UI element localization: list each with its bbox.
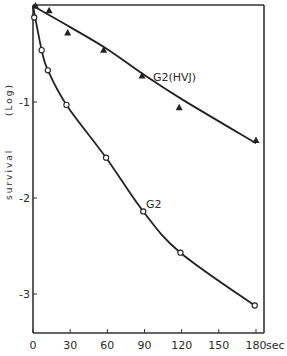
circle-marker: [64, 102, 69, 107]
triangle-marker: [46, 7, 53, 14]
y-axis-title-word: survival: [4, 149, 14, 200]
triangle-marker: [253, 136, 260, 143]
series-curves: [33, 6, 256, 306]
triangle-marker: [64, 29, 71, 36]
series-markers: [32, 2, 260, 308]
plot-frame: [33, 5, 264, 333]
circle-marker: [178, 250, 183, 255]
y-tick-label: -2: [19, 192, 30, 205]
series-label-g2: G2: [146, 198, 162, 211]
x-tick-label: 60: [100, 339, 114, 352]
curve-g2: [33, 6, 256, 306]
circle-marker: [45, 68, 50, 73]
x-tick-label: 90: [138, 339, 152, 352]
circle-marker: [252, 303, 257, 308]
y-tick-label: -1: [19, 96, 30, 109]
y-tick-label: -3: [19, 288, 30, 301]
y-axis-title: survival (Log): [4, 83, 14, 200]
x-tick-label: 30: [63, 339, 77, 352]
curve-g2-hvj: [33, 6, 256, 143]
x-tick-label: 0: [30, 339, 37, 352]
survival-chart: 0306090120150180 -1-2-3 sec G2(HVJ) G2 s…: [0, 0, 287, 356]
circle-marker: [32, 15, 37, 20]
series-label-g2-hvj: G2(HVJ): [153, 71, 196, 84]
y-axis-ticks: -1-2-3: [19, 96, 37, 301]
x-unit-label: sec: [266, 339, 285, 352]
circle-marker: [103, 155, 108, 160]
x-tick-label: 120: [171, 339, 192, 352]
x-tick-label: 180: [246, 339, 267, 352]
circle-marker: [39, 48, 44, 53]
y-axis-title-scale: (Log): [4, 83, 14, 116]
x-tick-label: 150: [208, 339, 229, 352]
triangle-marker: [176, 104, 183, 111]
